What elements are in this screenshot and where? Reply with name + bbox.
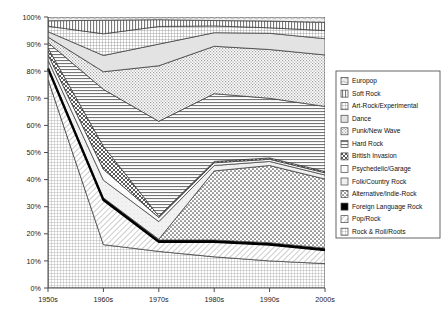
legend-label-dance: Dance (352, 115, 371, 122)
legend-item-alternative-indie-rock[interactable]: Alternative/Indie-Rock (341, 190, 417, 197)
legend-swatch-folk-country-rock (341, 178, 348, 185)
legend-item-pop-rock[interactable]: Pop/Rock (341, 215, 381, 223)
x-tick-label: 1960s (94, 295, 114, 304)
legend-swatch-british-invasion (341, 153, 348, 160)
y-tick-label: 80% (27, 67, 42, 76)
legend-item-dance[interactable]: Dance (341, 115, 371, 122)
legend-swatch-punk-new-wave (341, 128, 348, 135)
legend-label-alternative-indie-rock: Alternative/Indie-Rock (352, 190, 417, 197)
y-tick-label: 30% (27, 202, 42, 211)
y-tick-label: 70% (27, 94, 42, 103)
chart-root: 0%10%20%30%40%50%60%70%80%90%100% 1950s1… (0, 0, 445, 323)
legend-item-foreign-language-rock[interactable]: Foreign Language Rock (341, 203, 423, 211)
legend: EuropopSoft RockArt-Rock/ExperimentalDan… (336, 71, 440, 238)
legend-label-europop: Europop (352, 77, 377, 85)
legend-swatch-psychedelic-garage (341, 165, 348, 172)
legend-swatch-alternative-indie-rock (341, 191, 348, 198)
legend-swatch-europop (341, 78, 348, 85)
legend-label-pop-rock: Pop/Rock (352, 215, 381, 223)
y-tick-label: 90% (27, 40, 42, 49)
legend-swatch-pop-rock (341, 216, 348, 223)
legend-label-foreign-language-rock: Foreign Language Rock (352, 203, 423, 211)
legend-label-rock-roll-roots: Rock & Roll/Roots (352, 228, 406, 235)
y-tick-label: 100% (23, 13, 42, 22)
legend-swatch-art-rock-experimental (341, 103, 348, 110)
x-tick-label: 1990s (260, 295, 280, 304)
y-tick-label: 50% (27, 148, 42, 157)
y-tick-label: 60% (27, 121, 42, 130)
x-tick-label: 1980s (204, 295, 224, 304)
legend-item-art-rock-experimental[interactable]: Art-Rock/Experimental (341, 102, 418, 110)
y-tick-label: 40% (27, 175, 42, 184)
legend-label-hard-rock: Hard Rock (352, 140, 384, 147)
legend-label-soft-rock: Soft Rock (352, 90, 381, 97)
area-bands-group (48, 17, 325, 288)
legend-label-psychedelic-garage: Psychedelic/Garage (352, 165, 411, 173)
y-tick-label: 10% (27, 257, 42, 266)
legend-label-punk-new-wave: Punk/New Wave (352, 127, 401, 134)
legend-swatch-rock-roll-roots (341, 228, 348, 235)
stacked-area-chart: 0%10%20%30%40%50%60%70%80%90%100% 1950s1… (0, 0, 445, 323)
y-tick-label: 20% (27, 229, 42, 238)
legend-swatch-foreign-language-rock (341, 203, 348, 210)
legend-label-folk-country-rock: Folk/Country Rock (352, 178, 407, 186)
x-tick-label: 1970s (149, 295, 169, 304)
legend-item-soft-rock[interactable]: Soft Rock (341, 90, 381, 97)
x-tick-label: 2000s (315, 295, 335, 304)
legend-item-hard-rock[interactable]: Hard Rock (341, 140, 384, 147)
legend-swatch-hard-rock (341, 140, 348, 147)
legend-swatch-dance (341, 115, 348, 122)
legend-label-british-invasion: British Invasion (352, 152, 397, 159)
legend-swatch-soft-rock (341, 90, 348, 97)
legend-label-art-rock-experimental: Art-Rock/Experimental (352, 102, 418, 110)
legend-item-psychedelic-garage[interactable]: Psychedelic/Garage (341, 165, 411, 173)
x-tick-label: 1950s (38, 295, 58, 304)
legend-item-europop[interactable]: Europop (341, 77, 377, 85)
y-tick-label: 0% (31, 284, 42, 293)
